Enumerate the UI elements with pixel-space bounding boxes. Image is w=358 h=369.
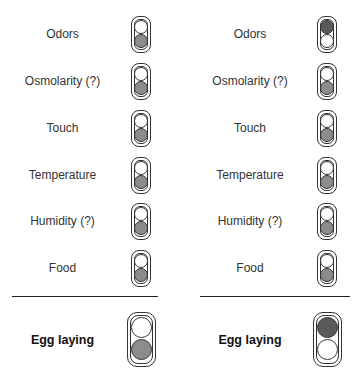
divider-line (200, 296, 350, 297)
row-odors: Odors (0, 14, 179, 54)
traffic-light-large-icon (127, 312, 156, 367)
traffic-light-large-icon (313, 312, 342, 367)
row-label: Food (20, 248, 105, 288)
row-odors: Odors (179, 14, 358, 54)
row-humidity: Humidity (?) (179, 201, 358, 241)
row-temperature: Temperature (179, 155, 358, 195)
traffic-light-icon (131, 203, 151, 240)
row-temperature: Temperature (0, 155, 179, 195)
left-panel: Odors Osmolarity (?) Touch Temperature H… (0, 0, 179, 369)
traffic-light-icon (131, 157, 151, 194)
row-egg-laying: Egg laying (0, 310, 179, 369)
row-touch: Touch (179, 108, 358, 148)
traffic-light-icon (317, 250, 337, 287)
row-label: Food (205, 248, 295, 288)
row-egg-laying: Egg laying (179, 310, 358, 369)
row-label: Odors (205, 14, 295, 54)
traffic-light-icon (131, 110, 151, 147)
row-label: Temperature (20, 155, 105, 195)
row-osmolarity: Osmolarity (?) (179, 61, 358, 101)
row-label: Humidity (?) (205, 201, 295, 241)
row-touch: Touch (0, 108, 179, 148)
row-osmolarity: Osmolarity (?) (0, 61, 179, 101)
traffic-light-icon (317, 157, 337, 194)
output-label: Egg laying (205, 310, 295, 369)
traffic-light-icon (317, 110, 337, 147)
divider-line (12, 296, 158, 297)
traffic-light-icon (317, 63, 337, 100)
row-humidity: Humidity (?) (0, 201, 179, 241)
row-food: Food (179, 248, 358, 288)
row-label: Touch (20, 108, 105, 148)
traffic-light-icon (317, 16, 337, 53)
row-label: Temperature (205, 155, 295, 195)
row-label: Odors (20, 14, 105, 54)
traffic-light-icon (131, 63, 151, 100)
row-label: Osmolarity (?) (20, 61, 105, 101)
row-label: Touch (205, 108, 295, 148)
output-label: Egg laying (20, 310, 105, 369)
row-label: Humidity (?) (20, 201, 105, 241)
traffic-light-icon (131, 250, 151, 287)
right-panel: Odors Osmolarity (?) Touch Temperature H… (179, 0, 358, 369)
row-food: Food (0, 248, 179, 288)
row-label: Osmolarity (?) (205, 61, 295, 101)
traffic-light-icon (317, 203, 337, 240)
traffic-light-icon (131, 16, 151, 53)
